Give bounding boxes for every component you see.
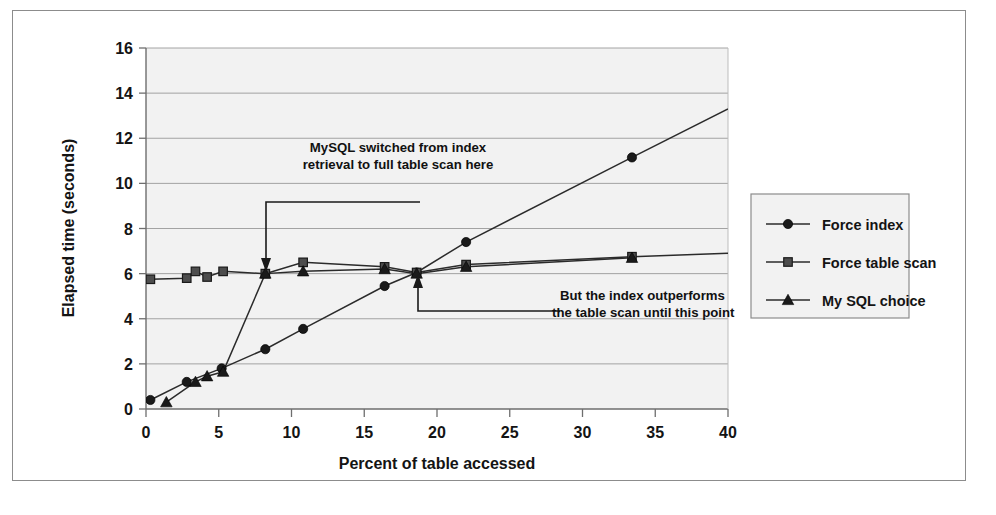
x-tick-label: 15 (355, 424, 373, 441)
data-point-marker (219, 267, 228, 276)
data-point-marker (261, 345, 270, 354)
data-point-marker (182, 377, 191, 386)
annotation-crossover-line2: the table scan until this point (552, 305, 735, 320)
legend: Force indexForce table scanMy SQL choice (751, 194, 936, 318)
x-tick-label: 40 (719, 424, 737, 441)
x-tick-label: 25 (501, 424, 519, 441)
data-point-marker (182, 274, 191, 283)
y-axis-title: Elapsed time (seconds) (60, 139, 77, 318)
data-point-marker (203, 273, 212, 282)
y-tick-label: 0 (124, 401, 133, 418)
y-axis-ticks: 0246810121416 (115, 40, 146, 418)
y-tick-label: 16 (115, 40, 133, 57)
y-tick-label: 14 (115, 85, 133, 102)
legend-sample-marker (783, 219, 792, 228)
data-point-marker (462, 237, 471, 246)
chart-canvas: 0246810121416 0510152025303540 Percent o… (0, 0, 996, 515)
y-tick-label: 6 (124, 266, 133, 283)
data-point-marker (146, 395, 155, 404)
legend-label: Force index (822, 217, 903, 233)
data-point-marker (146, 275, 155, 284)
y-tick-label: 2 (124, 356, 133, 373)
data-point-marker (299, 324, 308, 333)
annotation-crossover-line1: But the index outperforms (560, 288, 725, 303)
x-tick-label: 30 (574, 424, 592, 441)
x-tick-label: 35 (646, 424, 664, 441)
data-point-marker (191, 267, 200, 276)
x-tick-label: 20 (428, 424, 446, 441)
x-axis-ticks: 0510152025303540 (142, 409, 737, 441)
y-tick-label: 12 (115, 130, 133, 147)
data-point-marker (627, 153, 636, 162)
x-tick-label: 10 (283, 424, 301, 441)
figure-root: 0246810121416 0510152025303540 Percent o… (0, 0, 996, 515)
legend-label: My SQL choice (822, 293, 926, 309)
x-axis-title: Percent of table accessed (339, 455, 536, 472)
legend-label: Force table scan (822, 255, 936, 271)
data-point-marker (380, 281, 389, 290)
x-tick-label: 0 (142, 424, 151, 441)
y-tick-label: 8 (124, 221, 133, 238)
y-tick-label: 4 (124, 311, 133, 328)
annotation-switch-line2: retrieval to full table scan here (303, 157, 494, 172)
y-tick-label: 10 (115, 175, 133, 192)
legend-sample-marker (784, 258, 793, 267)
x-tick-label: 5 (214, 424, 223, 441)
annotation-switch-line1: MySQL switched from index (310, 140, 487, 155)
